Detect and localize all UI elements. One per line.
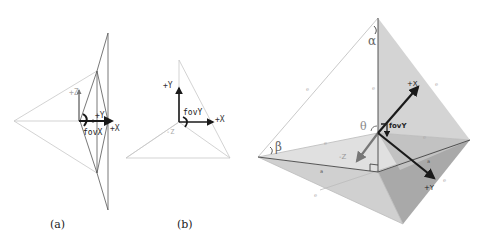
beta-label: β: [275, 140, 282, 154]
caption-a: (a): [50, 218, 65, 231]
z-label-a: +Z: [69, 88, 79, 97]
fov-label-c: fovY: [389, 122, 407, 130]
frustum-diagram: +Z +Y +X fovX +Y +X -Z fovY: [0, 0, 484, 249]
theta-label: θ: [360, 120, 367, 133]
edge-mark: e: [324, 140, 327, 146]
alpha-label: α: [368, 34, 376, 48]
z-label-c: -Z: [339, 153, 347, 161]
edge-mark: e: [314, 192, 317, 198]
x-label-c: +X: [407, 80, 418, 88]
edge-mark: e: [435, 81, 438, 87]
beta-arc: [270, 147, 272, 154]
theta-arc: [371, 126, 377, 131]
edge-mark: a: [320, 168, 323, 174]
edge-mark: a: [427, 158, 430, 164]
edge-mark: e: [385, 178, 388, 184]
x-label-b: +X: [215, 115, 225, 124]
edge-mark: e: [306, 86, 309, 92]
alpha-arc: [374, 26, 376, 34]
z-label-b: -Z: [166, 128, 174, 136]
panel-c: +X +Y -Z fovY α β θ e e e e e a a e e e: [258, 18, 470, 224]
y-label-c: +Y: [424, 184, 435, 192]
y-label-b: +Y: [163, 81, 173, 90]
x-label-a: +X: [110, 124, 120, 133]
panel-b: +Y +X -Z fovY: [126, 60, 230, 158]
edge-mark: e: [372, 85, 375, 91]
frustum-b-outline: [126, 60, 230, 158]
fov-label-b: fovY: [183, 108, 202, 117]
panel-a: +Z +Y +X fovX: [14, 33, 120, 210]
edge-mark: e: [423, 134, 426, 140]
edge-mark: e: [443, 177, 446, 183]
y-label-a: +Y: [95, 111, 105, 120]
fov-label-a: fovX: [83, 128, 102, 137]
caption-b: (b): [177, 218, 193, 231]
